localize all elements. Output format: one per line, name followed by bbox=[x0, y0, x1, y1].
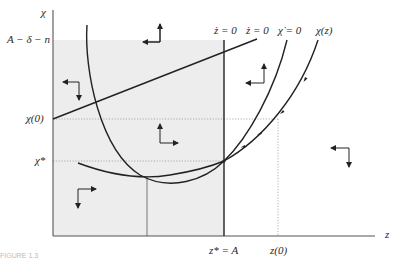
label-zdot-line: ż = 0 bbox=[246, 25, 269, 36]
phase-arrows-right-inner bbox=[246, 64, 264, 83]
figure-caption: FIGURE 1.3 bbox=[0, 252, 38, 259]
x-tick-z0: z(0) bbox=[270, 245, 287, 256]
label-zdot-vertical: ż = 0 bbox=[214, 25, 237, 36]
y-axis-label: χ bbox=[41, 7, 46, 18]
shaded-region bbox=[53, 40, 224, 236]
path-arrow-1 bbox=[304, 77, 308, 82]
y-tick-upper: A − δ − n bbox=[7, 34, 50, 45]
label-chi-path: χ(z) bbox=[316, 25, 332, 36]
steady-state-point bbox=[222, 159, 225, 162]
phase-diagram bbox=[0, 0, 398, 263]
x-tick-zstar: z* = A bbox=[209, 245, 238, 256]
y-tick-chi0: χ(0) bbox=[26, 113, 44, 124]
y-tick-chistar: χ* bbox=[35, 155, 45, 166]
label-chidot: χ̇ = 0 bbox=[278, 25, 301, 36]
x-axis-label: z bbox=[385, 229, 389, 240]
phase-arrows-upper bbox=[143, 24, 160, 42]
phase-arrows-right-outer bbox=[331, 148, 349, 167]
